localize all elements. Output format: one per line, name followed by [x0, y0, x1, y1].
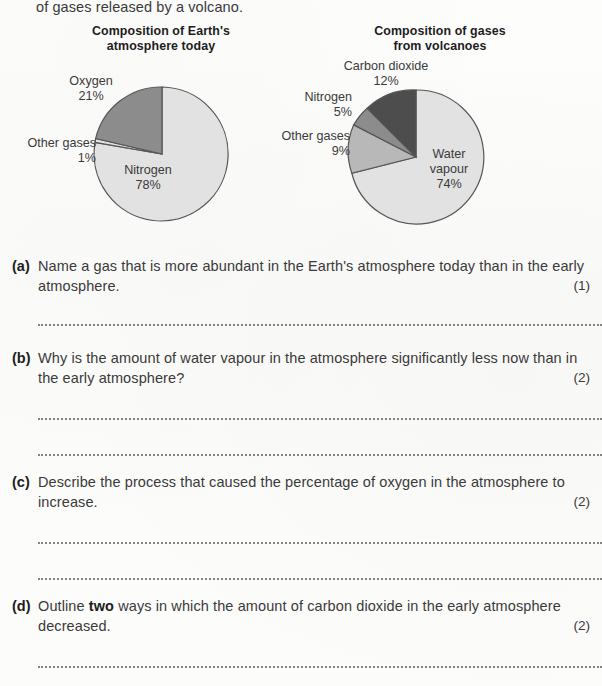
question-c: (c) Describe the process that caused the… [12, 472, 590, 512]
question-c-text: Describe the process that caused the per… [38, 472, 590, 512]
question-b-marks: (2) [573, 368, 590, 388]
pie-2-label-nitrogen-name: Nitrogen [272, 90, 352, 105]
pie-2-label-carbon-dioxide: Carbon dioxide 12% [326, 59, 446, 89]
question-d-text-after: ways in which the amount of carbon dioxi… [38, 598, 561, 634]
pie-2-label-water-vapour-name-1: Water [412, 147, 486, 162]
answer-line-c-2[interactable] [38, 576, 602, 580]
pie-2-label-other-gases-name: Other gases [254, 129, 350, 144]
pie-1-label-other-gases: Other gases 1% [0, 136, 96, 166]
pie-1-label-oxygen: Oxygen 21% [56, 74, 126, 104]
pie-2-label-carbon-dioxide-value: 12% [326, 74, 446, 89]
pie-1-label-nitrogen-name: Nitrogen [108, 163, 188, 178]
pie-2-label-carbon-dioxide-name: Carbon dioxide [326, 59, 446, 74]
answer-line-b-2[interactable] [38, 452, 602, 456]
answer-line-d-1[interactable] [38, 664, 602, 668]
pie-1-label-other-gases-value: 1% [0, 151, 96, 166]
answer-line-c-1[interactable] [38, 540, 602, 544]
chart-earth-atmosphere-today: Composition of Earth's atmosphere today [61, 24, 261, 53]
question-a-text: Name a gas that is more abundant in the … [38, 256, 590, 296]
pie-2-label-water-vapour-value: 74% [412, 177, 486, 192]
question-d-text: Outline two ways in which the amount of … [38, 596, 590, 636]
chart-1-title: Composition of Earth's atmosphere today [61, 24, 261, 53]
answer-line-b-1[interactable] [38, 416, 602, 420]
question-d-text-before: Outline [38, 598, 89, 614]
charts-container: Composition of Earth's atmosphere today … [0, 24, 602, 242]
pie-1-svg [93, 85, 231, 223]
chart-1-title-line1: Composition of Earth's [61, 24, 261, 39]
pie-1-label-other-gases-name: Other gases [0, 136, 96, 151]
chart-volcano-gases: Composition of gases from volcanoes [340, 24, 540, 53]
pie-2-label-other-gases-value: 9% [254, 144, 350, 159]
intro-text: of gases released by a volcano. [36, 0, 243, 17]
pie-2-label-other-gases: Other gases 9% [254, 129, 350, 159]
question-b: (b) Why is the amount of water vapour in… [12, 348, 590, 388]
question-a-marks: (1) [573, 276, 590, 296]
chart-2-title-line1: Composition of gases [340, 24, 540, 39]
question-c-marks: (2) [573, 492, 590, 512]
pie-2-label-nitrogen-value: 5% [272, 105, 352, 120]
question-c-letter: (c) [12, 472, 38, 492]
question-d-letter: (d) [12, 596, 38, 616]
question-a-letter: (a) [12, 256, 38, 276]
question-a: (a) Name a gas that is more abundant in … [12, 256, 590, 296]
pie-1-label-oxygen-value: 21% [56, 89, 126, 104]
pie-1-label-nitrogen: Nitrogen 78% [108, 163, 188, 193]
pie-2-label-nitrogen: Nitrogen 5% [272, 90, 352, 120]
chart-1-title-line2: atmosphere today [61, 39, 261, 54]
answer-line-a-1[interactable] [38, 322, 602, 326]
chart-2-title-line2: from volcanoes [340, 39, 540, 54]
pie-1-label-nitrogen-value: 78% [108, 178, 188, 193]
question-d-text-bold: two [89, 598, 114, 614]
chart-2-title: Composition of gases from volcanoes [340, 24, 540, 53]
pie-1-label-oxygen-name: Oxygen [56, 74, 126, 89]
question-b-text: Why is the amount of water vapour in the… [38, 348, 590, 388]
pie-2-label-water-vapour-name-2: vapour [412, 162, 486, 177]
question-d: (d) Outline two ways in which the amount… [12, 596, 590, 636]
pie-2-label-water-vapour: Water vapour 74% [412, 147, 486, 192]
pie-chart-earth-today [93, 85, 231, 223]
question-d-marks: (2) [573, 616, 590, 636]
question-b-letter: (b) [12, 348, 38, 368]
